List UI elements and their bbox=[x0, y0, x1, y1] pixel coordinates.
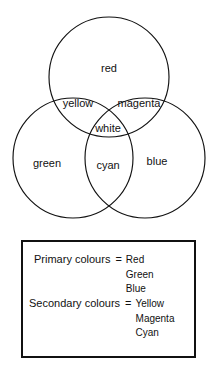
legend-secondary-value-cyan: Cyan bbox=[136, 326, 175, 341]
legend-primary-group: Primary colours = Red Green Blue bbox=[34, 251, 154, 297]
legend-secondary-title: Secondary colours bbox=[29, 295, 120, 311]
red-circle bbox=[49, 17, 169, 137]
label-red: red bbox=[101, 63, 117, 74]
label-green: green bbox=[33, 158, 61, 169]
label-yellow: yellow bbox=[63, 98, 94, 109]
legend-primary-value-green: Green bbox=[126, 268, 154, 283]
legend-secondary-value-yellow: Yellow bbox=[136, 297, 175, 312]
label-cyan: cyan bbox=[96, 160, 119, 171]
legend-primary-values: Red Green Blue bbox=[126, 252, 154, 297]
label-blue: blue bbox=[147, 156, 168, 167]
legend-primary-title: Primary colours bbox=[34, 251, 110, 267]
legend-primary-row: Primary colours = Red Green Blue bbox=[34, 251, 154, 297]
legend-secondary-row: Secondary colours = Yellow Magenta Cyan bbox=[29, 295, 174, 341]
legend-secondary-group: Secondary colours = Yellow Magenta Cyan bbox=[29, 295, 174, 341]
venn-circles-svg bbox=[0, 0, 212, 230]
label-white: white bbox=[95, 123, 121, 134]
legend-secondary-value-magenta: Magenta bbox=[136, 312, 175, 327]
legend-box: Primary colours = Red Green Blue Seconda… bbox=[21, 240, 196, 358]
label-magenta: magenta bbox=[118, 98, 161, 109]
legend-secondary-equals: = bbox=[120, 295, 135, 311]
legend-primary-value-red: Red bbox=[126, 253, 154, 268]
legend-secondary-values: Yellow Magenta Cyan bbox=[136, 296, 175, 341]
venn-diagram-figure: red yellow magenta white green cyan blue bbox=[0, 0, 212, 230]
legend-primary-equals: = bbox=[110, 251, 125, 267]
